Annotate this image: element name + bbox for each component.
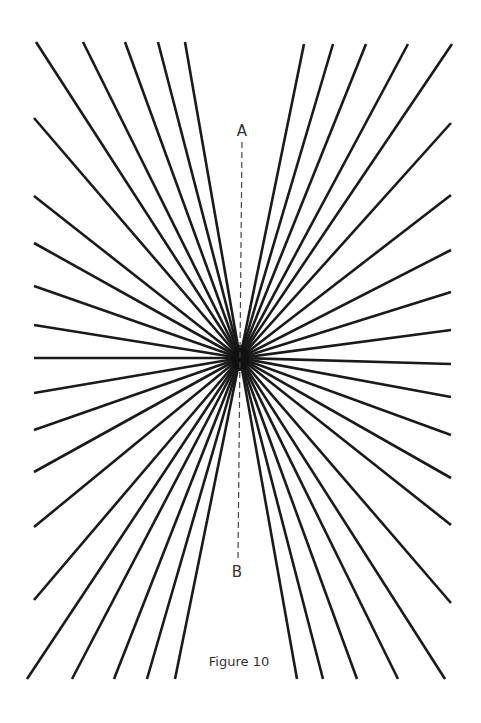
ray-line bbox=[240, 358, 445, 679]
ray-line bbox=[34, 196, 240, 358]
ray-line bbox=[36, 42, 240, 358]
ray-line bbox=[185, 42, 240, 358]
figure-caption: Figure 10 bbox=[209, 654, 269, 669]
ray-line bbox=[240, 44, 333, 358]
ray-line bbox=[240, 292, 451, 358]
ray-line bbox=[240, 358, 297, 679]
ray-line bbox=[147, 358, 240, 679]
ray-line bbox=[72, 358, 240, 679]
ray-line bbox=[240, 250, 451, 358]
label-b: B bbox=[232, 563, 242, 581]
ray-line bbox=[34, 358, 240, 527]
label-a: A bbox=[237, 122, 248, 140]
ray-line bbox=[240, 358, 451, 478]
hering-illusion-figure: A B Figure 10 bbox=[0, 0, 481, 723]
ray-line bbox=[240, 358, 357, 679]
ray-line bbox=[125, 42, 240, 358]
ray-line bbox=[240, 44, 408, 358]
